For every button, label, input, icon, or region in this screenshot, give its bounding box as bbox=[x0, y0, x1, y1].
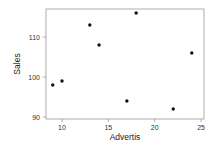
data-points bbox=[51, 11, 193, 110]
x-tick-label: 15 bbox=[104, 124, 112, 131]
data-point bbox=[97, 43, 100, 46]
data-point bbox=[134, 11, 137, 14]
scatter-chart: 1015202590100110 Advertis Sales bbox=[0, 0, 217, 155]
x-axis-label: Advertis bbox=[110, 132, 141, 142]
y-tick-label: 110 bbox=[29, 34, 40, 41]
y-tick-label: 90 bbox=[32, 114, 40, 121]
x-tick-label: 10 bbox=[58, 124, 66, 131]
x-tick-label: 25 bbox=[197, 124, 205, 131]
data-point bbox=[190, 51, 193, 54]
data-point bbox=[172, 107, 175, 110]
data-point bbox=[88, 23, 91, 26]
y-axis-label: Sales bbox=[12, 53, 22, 74]
data-point bbox=[125, 99, 128, 102]
plot-border bbox=[46, 9, 204, 119]
x-tick-label: 20 bbox=[151, 124, 159, 131]
y-tick-label: 100 bbox=[28, 74, 40, 81]
data-point bbox=[51, 83, 54, 86]
data-point bbox=[60, 79, 63, 82]
axis-ticks: 1015202590100110 bbox=[28, 34, 205, 132]
plot-frame bbox=[46, 9, 204, 119]
